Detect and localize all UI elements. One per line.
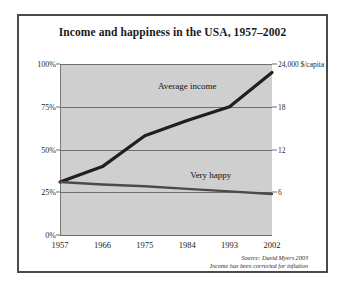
x-axis-tick-1966: 1966	[94, 240, 111, 250]
y-axis-tick-75: 75%	[41, 102, 56, 111]
chart-title: Income and happiness in the USA, 1957–20…	[19, 26, 326, 38]
tick-dash-right-6000	[272, 192, 277, 193]
x-axis-tick-2002: 2002	[264, 240, 281, 250]
x-axis-tick-1957: 1957	[52, 240, 69, 250]
y2-axis-tick-6000: 6	[278, 188, 282, 197]
y-axis-tick-25: 25%	[41, 188, 56, 197]
source-attribution: Source: David Myers 2003	[241, 254, 308, 261]
gridline-0	[60, 235, 272, 236]
x-axis-tick-1984: 1984	[179, 240, 196, 250]
y-axis-tick-0: 0%	[45, 231, 56, 240]
y2-axis-tick-24000: 24,000 $/capita	[278, 60, 324, 69]
y2-axis-tick-12000: 12	[278, 145, 286, 154]
x-axis-tick-1975: 1975	[136, 240, 153, 250]
source-note-inflation: Income has been corrected for inflation	[210, 262, 308, 269]
y-axis-tick-100: 100%	[37, 60, 56, 69]
series-label-very-happy: Very happy	[190, 170, 231, 180]
y-axis-tick-50: 50%	[41, 145, 56, 154]
x-axis-tick-1993: 1993	[221, 240, 238, 250]
tick-dash-right-12000	[272, 149, 277, 150]
tick-dash-right-24000	[272, 64, 277, 65]
line-very-happy	[60, 182, 272, 194]
chart-figure-frame: Income and happiness in the USA, 1957–20…	[17, 14, 328, 273]
plot-area-wrapper: 100% 24,000 $/capita 75% 18 50% 12 25% 6…	[60, 64, 272, 235]
tick-dash-right-18000	[272, 106, 277, 107]
series-label-average-income: Average income	[158, 81, 217, 91]
y2-axis-tick-18000: 18	[278, 102, 286, 111]
